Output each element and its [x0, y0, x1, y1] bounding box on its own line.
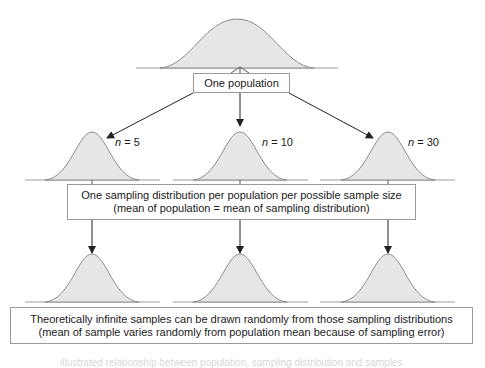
figure-caption: illustrated relationship between populat…: [60, 357, 402, 368]
sampling-line-2: (mean of population = mean of sampling d…: [113, 202, 370, 215]
population-curve: [136, 19, 338, 73]
sample-size-value: 5: [134, 136, 140, 148]
equals: =: [414, 136, 427, 148]
sample-size-label-5: n = 5: [115, 136, 140, 148]
samples-box: Theoretically infinite samples can be dr…: [10, 307, 473, 344]
equals: =: [268, 136, 281, 148]
sampling-distribution-curves: [25, 132, 455, 184]
population-label: One population: [204, 77, 279, 90]
sample-size-label-30: n = 30: [408, 136, 439, 148]
sample-size-value: 10: [281, 136, 293, 148]
samples-line-1: Theoretically infinite samples can be dr…: [30, 313, 452, 326]
equals: =: [121, 136, 134, 148]
sample-size-label-10: n = 10: [262, 136, 293, 148]
sample-curves: [25, 254, 455, 302]
population-box: One population: [193, 73, 290, 93]
population-arrows: [107, 93, 373, 138]
sample-size-value: 30: [427, 136, 439, 148]
sampling-arrows: [92, 220, 388, 253]
sampling-distribution-box: One sampling distribution per population…: [67, 184, 416, 220]
sampling-line-1: One sampling distribution per population…: [81, 189, 401, 202]
samples-line-2: (mean of sample varies randomly from pop…: [39, 326, 445, 339]
